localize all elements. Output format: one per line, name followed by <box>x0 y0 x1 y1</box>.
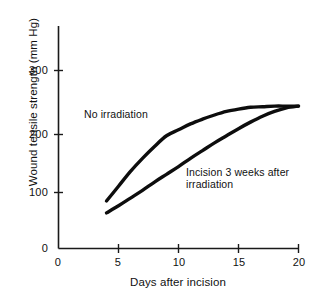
chart-figure: 300 200 100 0 0 5 10 15 20 Wound tensile… <box>0 0 316 297</box>
x-axis-title: Days after incision <box>58 276 298 288</box>
y-axis-title: Wound tensile strength (mm Hg) <box>27 7 39 197</box>
x-tick-label-20: 20 <box>288 256 310 268</box>
x-tick-label-0: 0 <box>48 256 68 268</box>
annotation-incision-line1: Incision 3 weeks after <box>186 166 289 178</box>
annotation-incision-line2: irradiation <box>186 178 289 190</box>
annotation-no-irradiation: No irradiation <box>84 108 148 120</box>
x-tick-label-5: 5 <box>108 256 128 268</box>
x-tick-label-10: 10 <box>168 256 190 268</box>
curve-incision-after-irradiation <box>107 106 299 213</box>
x-tick-label-15: 15 <box>228 256 250 268</box>
y-tick-label-0: 0 <box>8 242 48 254</box>
annotation-incision-after-irradiation: Incision 3 weeks after irradiation <box>186 166 289 190</box>
